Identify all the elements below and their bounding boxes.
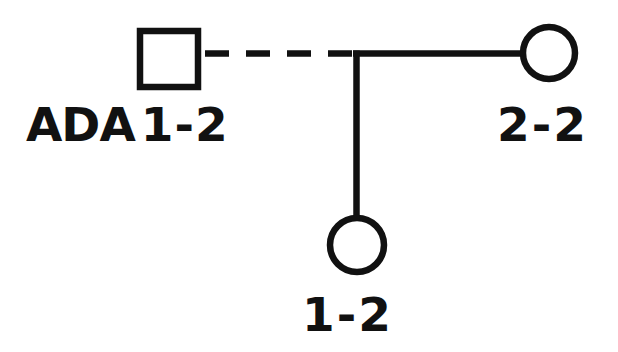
label-child-genotype: 1-2 bbox=[302, 291, 393, 338]
label-mother-genotype: 2-2 bbox=[497, 101, 588, 148]
pedigree-canvas: ADA1-2 2-2 1-2 bbox=[0, 0, 618, 352]
father-genotype-text: 1-2 bbox=[141, 97, 229, 152]
symbol-female-child[interactable] bbox=[330, 218, 384, 272]
symbol-female-mother[interactable] bbox=[523, 27, 575, 79]
label-father-genotype: ADA1-2 bbox=[26, 101, 229, 148]
symbol-male-father[interactable] bbox=[140, 31, 198, 87]
gene-symbol-text: ADA bbox=[26, 97, 135, 152]
